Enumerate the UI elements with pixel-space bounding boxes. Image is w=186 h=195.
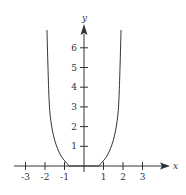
x-tick-label: 1: [101, 172, 107, 182]
y-axis-ticks: 123456: [71, 43, 88, 152]
y-tick-label: 5: [71, 63, 77, 73]
y-axis-label: y: [81, 13, 88, 23]
y-tick-label: 6: [71, 43, 77, 53]
x-axis-ticks: -3-2-1123: [21, 162, 146, 182]
y-axis: [81, 24, 88, 172]
graph-canvas: -3-2-1123 123456 x y: [0, 0, 186, 195]
y-tick-label: 3: [71, 102, 77, 112]
x-tick-label: 3: [140, 172, 146, 182]
y-axis-arrow-icon: [81, 24, 88, 35]
y-tick-label: 1: [71, 141, 77, 151]
x-tick-label: 2: [120, 172, 126, 182]
x-axis-label: x: [173, 161, 178, 171]
y-tick-label: 4: [71, 82, 77, 92]
x-tick-label: -2: [41, 172, 50, 182]
x-tick-label: -3: [21, 172, 30, 182]
x-tick-label: -1: [60, 172, 69, 182]
y-tick-label: 2: [71, 122, 77, 132]
